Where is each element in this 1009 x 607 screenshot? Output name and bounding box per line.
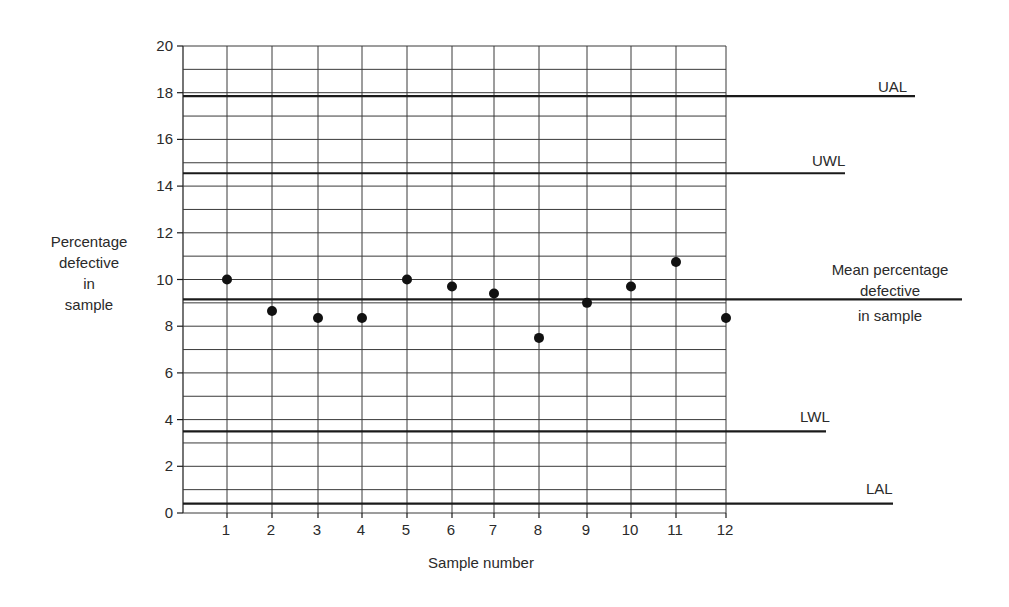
- data-point: [721, 313, 731, 323]
- y-tick-label: 4: [165, 411, 173, 428]
- data-point: [267, 306, 277, 316]
- x-tick-label: 3: [313, 521, 321, 538]
- data-point: [489, 289, 499, 299]
- ref-label-lal: LAL: [866, 480, 893, 497]
- mean-label-line: Mean percentage: [810, 259, 970, 280]
- x-tick-label: 6: [447, 521, 455, 538]
- y-tick-label: 6: [165, 364, 173, 381]
- y-tick-label: 0: [165, 504, 173, 521]
- x-tick-label: 4: [357, 521, 365, 538]
- x-tick-label: 11: [667, 521, 683, 538]
- axis-ticks: 02468101214161820123456789101112: [156, 37, 733, 538]
- y-axis-label-line: sample: [30, 294, 148, 315]
- mean-label-line: defective: [810, 280, 970, 301]
- x-axis-label: Sample number: [428, 554, 534, 571]
- mean-label-line: in sample: [810, 305, 970, 326]
- x-tick-label: 10: [622, 521, 639, 538]
- ref-label-lwl: LWL: [800, 408, 830, 425]
- ref-label-uwl: UWL: [812, 152, 845, 169]
- data-point: [671, 257, 681, 267]
- x-tick-label: 12: [717, 521, 734, 538]
- mean-line-label: Mean percentage defective in sample: [810, 259, 970, 326]
- data-point: [222, 275, 232, 285]
- y-axis-label: Percentage defective in sample: [30, 231, 148, 315]
- y-axis-label-line: Percentage: [30, 231, 148, 252]
- y-tick-label: 14: [156, 177, 173, 194]
- x-tick-label: 9: [582, 521, 590, 538]
- y-tick-label: 18: [156, 84, 173, 101]
- y-axis-label-line: defective: [30, 252, 148, 273]
- data-point: [357, 313, 367, 323]
- y-tick-label: 8: [165, 317, 173, 334]
- data-point: [313, 313, 323, 323]
- grid: [183, 46, 726, 513]
- data-point: [626, 282, 636, 292]
- y-tick-label: 20: [156, 37, 173, 54]
- data-point: [447, 282, 457, 292]
- y-axis-label-line: in: [30, 273, 148, 294]
- x-tick-label: 5: [402, 521, 410, 538]
- x-tick-label: 8: [534, 521, 542, 538]
- x-tick-label: 1: [222, 521, 230, 538]
- y-tick-label: 2: [165, 457, 173, 474]
- y-tick-label: 16: [156, 130, 173, 147]
- y-tick-label: 12: [156, 224, 173, 241]
- data-point: [402, 275, 412, 285]
- x-tick-label: 7: [489, 521, 497, 538]
- data-point: [582, 298, 592, 308]
- x-tick-label: 2: [267, 521, 275, 538]
- y-tick-label: 10: [156, 271, 173, 288]
- ref-label-ual: UAL: [878, 78, 907, 95]
- data-point: [534, 333, 544, 343]
